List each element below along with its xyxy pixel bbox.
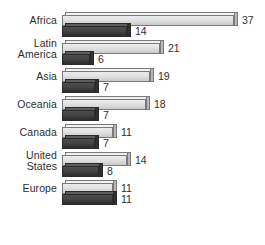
value-label: 14	[135, 25, 147, 37]
category-label: Asia	[0, 71, 57, 82]
bar-dark[interactable]	[62, 54, 90, 65]
bar-end-cap	[146, 96, 150, 110]
chart-group-row: Asia 19 7	[0, 68, 265, 96]
bar-dark[interactable]	[62, 110, 95, 121]
bar-front-face	[62, 26, 127, 37]
value-label: 7	[103, 81, 109, 93]
category-label: Europe	[0, 183, 57, 194]
value-label: 14	[135, 154, 147, 166]
bar-end-cap	[127, 152, 131, 166]
value-label: 11	[121, 126, 132, 138]
category-label: United States	[0, 150, 57, 172]
bar-end-cap	[95, 135, 99, 149]
bar-end-cap	[234, 12, 238, 26]
value-label: 19	[158, 70, 170, 82]
bar-front-face	[62, 166, 99, 177]
bar-end-cap	[99, 163, 103, 177]
value-label: 8	[107, 165, 113, 177]
bar-dark[interactable]	[62, 138, 95, 149]
chart-group-row: United States 14 8	[0, 152, 265, 180]
bar-front-face	[62, 54, 90, 65]
bar-end-cap	[150, 68, 154, 82]
bar-end-cap	[95, 107, 99, 121]
bar-dark[interactable]	[62, 82, 95, 93]
value-label: 6	[98, 53, 104, 65]
bar-dark[interactable]	[62, 194, 113, 205]
chart-group-row: Latin America 21 6	[0, 40, 265, 68]
bar-front-face	[62, 138, 95, 149]
chart-group-row: Africa 37 14	[0, 12, 265, 40]
category-label: Oceania	[0, 99, 57, 110]
chart-group-row: Europe 11 11	[0, 180, 265, 208]
bar-front-face	[62, 82, 95, 93]
bar-end-cap	[127, 23, 131, 37]
category-label: Africa	[0, 15, 57, 26]
chart-group-row: Oceania 18 7	[0, 96, 265, 124]
bar-front-face	[62, 194, 113, 205]
bar-end-cap	[113, 191, 117, 205]
bar-end-cap	[113, 124, 117, 138]
value-label: 11	[121, 193, 132, 205]
value-label: 18	[154, 98, 166, 110]
category-label: Canada	[0, 127, 57, 138]
value-label: 37	[242, 14, 254, 26]
value-label: 7	[103, 137, 109, 149]
bar-front-face	[62, 110, 95, 121]
bar-end-cap	[95, 79, 99, 93]
category-label: Latin America	[0, 38, 57, 60]
value-label: 7	[103, 109, 109, 121]
chart-group-row: Canada 11 7	[0, 124, 265, 152]
bar-end-cap	[160, 40, 164, 54]
bar-end-cap	[90, 51, 94, 65]
value-label: 21	[168, 42, 180, 54]
bar-dark[interactable]	[62, 26, 127, 37]
bar-chart: Africa 37 14 Latin America	[0, 0, 265, 245]
bar-dark[interactable]	[62, 166, 99, 177]
